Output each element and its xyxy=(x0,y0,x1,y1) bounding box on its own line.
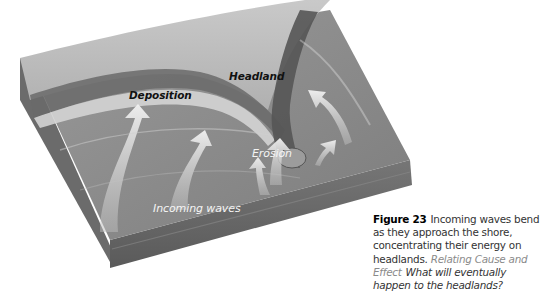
deposition-label: Deposition xyxy=(129,89,192,101)
incoming-waves-label: Incoming waves xyxy=(153,202,241,215)
figure-number: Figure 23 xyxy=(373,213,427,225)
erosion-label: Erosion xyxy=(252,147,292,160)
headland-label: Headland xyxy=(229,70,284,82)
figure-caption: Figure 23Incoming waves bend as they app… xyxy=(373,213,541,292)
